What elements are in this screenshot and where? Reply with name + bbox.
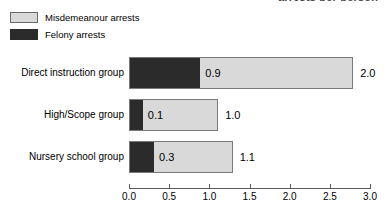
bar-row: Nursery school group 0.3 1.1 (0, 141, 386, 173)
x-axis-tick (250, 184, 251, 189)
misdemeanour-swatch-icon (10, 12, 38, 23)
chart-legend: Misdemeanour arrests Felony arrests (10, 11, 140, 45)
total-value-label: 1.1 (240, 141, 255, 173)
stacked-bar-high-scope (129, 99, 218, 131)
legend-label-misdemeanour: Misdemeanour arrests (45, 12, 140, 23)
x-axis-tick-label: 3.0 (363, 191, 377, 202)
bar-segment-felony (130, 142, 154, 172)
x-axis-tick-label: 1.5 (243, 191, 257, 202)
bar-row: Direct instruction group 0.9 2.0 (0, 57, 386, 89)
cropped-title-remnant: arrests per person (278, 0, 378, 1)
category-label-high-scope: High/Scope group (0, 99, 124, 131)
x-axis-tick (169, 184, 170, 189)
category-label-nursery-school: Nursery school group (0, 141, 124, 173)
x-axis-tick (209, 184, 210, 189)
category-label-direct-instruction: Direct instruction group (0, 57, 124, 89)
x-axis-tick (290, 184, 291, 189)
bar-segment-felony (130, 100, 143, 130)
stacked-bar-direct-instruction (129, 57, 353, 89)
total-value-label: 2.0 (360, 57, 375, 89)
x-axis-tick (370, 184, 371, 189)
stacked-bar-chart: arrests per person Misdemeanour arrests … (0, 0, 386, 212)
felony-swatch-icon (10, 29, 38, 40)
x-axis-tick-label: 2.5 (323, 191, 337, 202)
felony-value-label: 0.9 (205, 57, 220, 89)
felony-value-label: 0.3 (159, 141, 174, 173)
total-value-label: 1.0 (225, 99, 240, 131)
stacked-bar-nursery-school (129, 141, 233, 173)
bar-row: High/Scope group 0.1 1.0 (0, 99, 386, 131)
x-axis-tick (330, 184, 331, 189)
legend-item-felony: Felony arrests (10, 28, 140, 41)
x-axis-tick-label: 2.0 (283, 191, 297, 202)
plot-area: Direct instruction group 0.9 2.0 High/Sc… (0, 50, 386, 212)
x-axis: 0.00.51.01.52.02.53.0 (129, 188, 370, 212)
x-axis-tick-label: 0.0 (122, 191, 136, 202)
x-axis-tick (129, 184, 130, 189)
bar-segment-misdemeanour (200, 58, 352, 88)
felony-value-label: 0.1 (148, 99, 163, 131)
bar-segment-felony (130, 58, 200, 88)
legend-item-misdemeanour: Misdemeanour arrests (10, 11, 140, 24)
x-axis-tick-label: 1.0 (202, 191, 216, 202)
legend-label-felony: Felony arrests (45, 29, 105, 40)
x-axis-tick-label: 0.5 (162, 191, 176, 202)
